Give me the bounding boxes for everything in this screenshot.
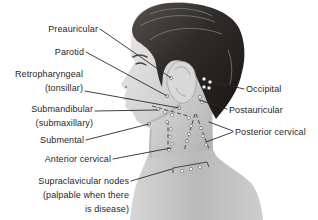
leader-submental <box>86 124 149 140</box>
label-submental: Submental <box>40 133 84 147</box>
neck-shading <box>150 129 151 158</box>
label-occipital: Occipital <box>246 82 281 96</box>
nostril <box>125 86 127 88</box>
label-submandibular: Submandibular (submaxillary) <box>31 102 93 130</box>
label-posterior-cervical: Posterior cervical <box>235 125 306 139</box>
label-supraclavicular: Supraclavicular nodes (palpable when the… <box>38 174 129 216</box>
label-anterior-cervical: Anterior cervical <box>45 152 111 166</box>
figure-canvas: Preauricular Parotid Retropharyngeal (to… <box>0 0 318 220</box>
label-parotid: Parotid <box>55 45 84 59</box>
label-postauricular: Postauricular <box>229 103 283 117</box>
label-preauricular: Preauricular <box>48 22 98 36</box>
label-retropharyngeal: Retropharyngeal (tonsillar) <box>15 67 83 95</box>
